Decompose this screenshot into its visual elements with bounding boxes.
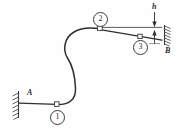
diagram-canvas	[0, 0, 182, 130]
node-1-label: 1	[56, 113, 60, 121]
support-b-hatching	[165, 26, 171, 46]
support-a-hatching	[13, 93, 19, 120]
node-3-badge: 3	[133, 40, 148, 55]
dimension-h-lower-arrowhead	[152, 30, 156, 36]
cable-segment-1-to-2	[57, 28, 100, 105]
cable-segment-2-to-3	[100, 30, 140, 37]
pin-node-1	[54, 102, 59, 107]
mechanics-diagram-figure: A B h 1 2 3	[0, 0, 182, 130]
support-a-label: A	[27, 89, 32, 97]
cable-segment-a-to-1	[19, 103, 57, 104]
support-a-group	[13, 91, 19, 120]
node-1-badge: 1	[50, 110, 65, 125]
node-2-badge: 2	[93, 12, 108, 27]
dimension-h-label: h	[152, 3, 156, 11]
support-b-label: B	[165, 47, 170, 55]
pin-node-3	[138, 34, 142, 38]
support-b-group	[165, 25, 171, 46]
node-3-label: 3	[139, 43, 143, 51]
node-2-label: 2	[99, 15, 103, 23]
dimension-h-upper-arrowhead	[152, 22, 156, 28]
